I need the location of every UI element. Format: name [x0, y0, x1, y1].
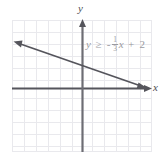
- equation-constant: 2: [139, 38, 147, 50]
- fraction-denominator: 3: [112, 44, 118, 53]
- equation-plus-sign: +: [127, 38, 136, 50]
- graph-canvas: [0, 0, 165, 164]
- y-axis: [79, 19, 86, 152]
- equation-relation-symbol: ≥: [94, 38, 102, 50]
- x-axis-label: x: [153, 82, 158, 93]
- equation-negative-sign: -: [106, 38, 112, 50]
- y-axis-label: y: [78, 3, 83, 14]
- equation-annotation: y ≥ -13x + 2: [86, 36, 146, 53]
- equation-variable: x: [119, 38, 124, 50]
- equation-lhs: y: [86, 38, 91, 50]
- equation-fraction: 13: [112, 36, 118, 53]
- coordinate-plane-figure: y x y ≥ -13x + 2: [0, 0, 165, 164]
- fraction-numerator: 1: [112, 36, 118, 44]
